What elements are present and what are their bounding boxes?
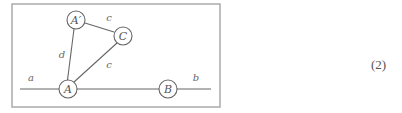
edge-label-c-lower: c xyxy=(106,59,112,70)
node-a-label: A xyxy=(63,83,72,96)
node-c-label: C xyxy=(119,30,128,43)
graph-diagram: A B A′ C d c c a b xyxy=(0,0,402,113)
node-a: A xyxy=(59,80,77,98)
line-label-a: a xyxy=(28,72,34,83)
node-c: C xyxy=(114,27,132,45)
node-b-label: B xyxy=(163,83,172,96)
node-a-prime: A′ xyxy=(67,11,85,29)
edge-aprime-c xyxy=(85,23,114,32)
edge-a-aprime xyxy=(68,29,75,80)
diagram-frame xyxy=(12,4,220,107)
line-label-b: b xyxy=(193,72,199,83)
equation-number: (2) xyxy=(371,57,386,73)
node-a-prime-label: A′ xyxy=(70,14,82,27)
edge-label-d: d xyxy=(59,49,65,60)
node-b: B xyxy=(159,80,177,98)
edge-label-c-upper: c xyxy=(106,12,112,23)
